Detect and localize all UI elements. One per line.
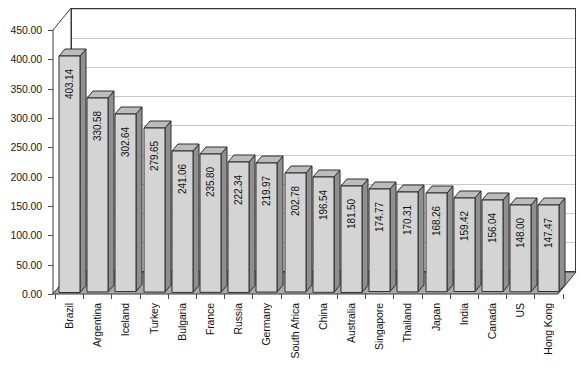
x-tick-mark	[252, 294, 253, 299]
x-axis-label: Australia	[341, 303, 362, 343]
x-tick-mark	[422, 294, 423, 299]
x-tick-mark	[196, 294, 197, 299]
bar: 148.00	[510, 207, 537, 294]
bar-value-label: 330.58	[87, 111, 108, 141]
y-tick-label: 50.00	[16, 259, 42, 270]
bar: 235.80	[200, 156, 227, 294]
bar-3d-body	[397, 185, 426, 294]
bar-value-label: 202.78	[285, 186, 306, 216]
x-axis-label: Japan	[426, 303, 447, 331]
y-tick-label: 350.00	[10, 83, 42, 94]
bar: 222.34	[228, 164, 255, 294]
bar-value-label: 181.50	[341, 199, 362, 229]
x-axis-label: Turkey	[144, 303, 165, 334]
x-axis-label: Singapore	[369, 303, 390, 350]
bar-3d-body	[426, 186, 455, 294]
bar: 168.26	[426, 195, 453, 294]
bar-value-label: 219.97	[256, 176, 277, 206]
bar-chart: 450.00400.00350.00300.00250.00200.00150.…	[0, 0, 588, 368]
bar: 330.58	[87, 100, 114, 294]
bar: 159.42	[454, 200, 481, 294]
bar-value-label: 241.06	[172, 164, 193, 194]
y-tick-label: 400.00	[10, 54, 42, 65]
bar: 156.04	[482, 202, 509, 294]
x-tick-mark	[140, 294, 141, 299]
x-axis-label: China	[313, 303, 334, 330]
x-axis-label: Thailand	[397, 303, 418, 342]
x-axis-label: US	[510, 303, 531, 317]
x-axis-label: Bulgaria	[172, 303, 193, 341]
x-axis-label: Argentina	[87, 303, 108, 347]
bar: 170.31	[397, 194, 424, 294]
y-axis: 450.00400.00350.00300.00250.00200.00150.…	[0, 0, 48, 368]
x-tick-mark	[365, 294, 366, 299]
x-axis-label: Germany	[256, 303, 277, 345]
bar-value-label: 196.54	[313, 190, 334, 220]
bar-value-label: 302.64	[115, 127, 136, 157]
bar: 241.06	[172, 153, 199, 294]
bar-value-label: 279.65	[144, 141, 165, 171]
bar-value-label: 159.42	[454, 211, 475, 241]
x-tick-mark	[478, 294, 479, 299]
x-tick-mark	[309, 294, 310, 299]
x-axis-label: Iceland	[115, 303, 136, 336]
plot-area: 403.14330.58302.64279.65241.06235.80222.…	[53, 8, 576, 294]
y-tick-label: 0.00	[22, 289, 42, 300]
bar: 202.78	[285, 175, 312, 294]
bar: 196.54	[313, 179, 340, 294]
x-tick-mark	[450, 294, 451, 299]
y-tick-label: 250.00	[10, 142, 42, 153]
x-tick-mark	[534, 294, 535, 299]
bar-3d-body	[341, 179, 370, 294]
x-tick-mark	[393, 294, 394, 299]
bar: 181.50	[341, 188, 368, 294]
x-tick-mark	[224, 294, 225, 299]
x-tick-mark	[168, 294, 169, 299]
bar-value-label: 156.04	[482, 213, 503, 243]
y-tick-label: 150.00	[10, 201, 42, 212]
bar-3d-body	[313, 170, 342, 294]
x-axis-label: France	[200, 303, 221, 335]
bar-3d-body	[482, 193, 511, 294]
x-axis-label: Hong Kong	[538, 303, 559, 355]
bar-value-label: 147.47	[538, 218, 559, 248]
y-tick-label: 300.00	[10, 113, 42, 124]
bar-value-label: 148.00	[510, 218, 531, 248]
bar-value-label: 170.31	[397, 205, 418, 235]
x-tick-mark	[111, 294, 112, 299]
x-axis-label: Brazil	[59, 303, 80, 329]
x-axis-label: India	[454, 303, 475, 325]
x-tick-mark	[563, 294, 564, 299]
x-axis: BrazilArgentinaIcelandTurkeyBulgariaFran…	[53, 294, 576, 368]
x-tick-mark	[506, 294, 507, 299]
bar: 219.97	[256, 165, 283, 294]
bars-layer: 403.14330.58302.64279.65241.06235.80222.…	[53, 8, 576, 294]
bar-value-label: 403.14	[59, 69, 80, 99]
y-tick-label: 100.00	[10, 230, 42, 241]
x-tick-mark	[337, 294, 338, 299]
bar-value-label: 222.34	[228, 175, 249, 205]
y-tick-label: 200.00	[10, 171, 42, 182]
bar: 147.47	[538, 207, 565, 294]
bar-3d-body	[454, 191, 483, 294]
bar-3d-body	[369, 182, 398, 294]
x-tick-mark	[83, 294, 84, 299]
x-tick-mark	[55, 294, 56, 299]
bar: 174.77	[369, 191, 396, 294]
x-axis-label: Russia	[228, 303, 249, 335]
x-tick-mark	[281, 294, 282, 299]
bar: 403.14	[59, 58, 86, 295]
bar: 302.64	[115, 116, 142, 294]
x-axis-label: South Africa	[285, 303, 306, 358]
bar: 279.65	[144, 130, 171, 294]
bar-value-label: 174.77	[369, 202, 390, 232]
bar-value-label: 168.26	[426, 206, 447, 236]
bar-value-label: 235.80	[200, 167, 221, 197]
x-axis-label: Canada	[482, 303, 503, 339]
y-tick-label: 450.00	[10, 25, 42, 36]
